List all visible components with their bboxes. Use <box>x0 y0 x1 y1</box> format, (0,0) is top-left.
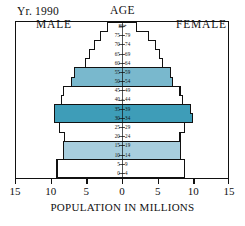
x-axis-tick-label: 5 <box>155 185 161 197</box>
x-axis-title: POPULATION IN MILLIONS <box>0 201 245 213</box>
x-axis-tick-label: 5 <box>84 185 90 197</box>
x-axis-tick-label: 15 <box>10 185 21 197</box>
x-axis-tick <box>51 179 52 184</box>
x-axis-tick <box>86 179 87 184</box>
x-axis-tick <box>228 179 229 184</box>
x-axis-tick-labels: 15105051015 <box>0 185 245 199</box>
population-pyramid-figure: Yr. 1990 AGE MALE FEMALE 80+75 – 7970 – … <box>0 0 245 226</box>
x-axis-tick <box>158 179 159 184</box>
caption-female: FEMALE <box>176 18 227 30</box>
age-axis-title: AGE <box>0 4 245 16</box>
x-axis-tick-label: 15 <box>224 185 235 197</box>
x-axis-ticks <box>15 179 229 184</box>
caption-male: MALE <box>36 18 72 30</box>
plot-surface <box>16 22 228 178</box>
plot-frame <box>15 21 229 179</box>
x-axis-tick-label: 10 <box>45 185 56 197</box>
x-axis-tick-label: 10 <box>188 185 199 197</box>
pyramid-bars <box>16 22 228 178</box>
x-axis-tick <box>193 179 194 184</box>
x-axis-tick-label: 0 <box>119 185 125 197</box>
x-axis-tick <box>122 179 123 184</box>
x-axis-tick <box>15 179 16 184</box>
